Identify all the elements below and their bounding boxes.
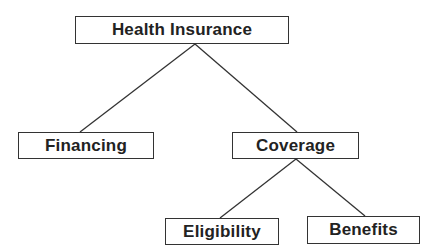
node-label: Financing	[45, 136, 127, 156]
node-label: Benefits	[329, 220, 398, 240]
node-health-insurance: Health Insurance	[75, 16, 289, 44]
node-label: Coverage	[256, 136, 335, 156]
edge-health-insurance-financing	[80, 44, 195, 132]
tree-diagram: Health Insurance Financing Coverage Elig…	[0, 0, 433, 252]
node-eligibility: Eligibility	[165, 218, 279, 245]
node-label: Health Insurance	[112, 20, 252, 40]
node-label: Eligibility	[183, 222, 261, 242]
edge-coverage-eligibility	[220, 159, 296, 218]
node-coverage: Coverage	[232, 132, 359, 159]
node-financing: Financing	[18, 132, 154, 159]
edge-health-insurance-coverage	[195, 44, 297, 132]
node-benefits: Benefits	[307, 216, 420, 244]
edge-coverage-benefits	[296, 159, 365, 216]
